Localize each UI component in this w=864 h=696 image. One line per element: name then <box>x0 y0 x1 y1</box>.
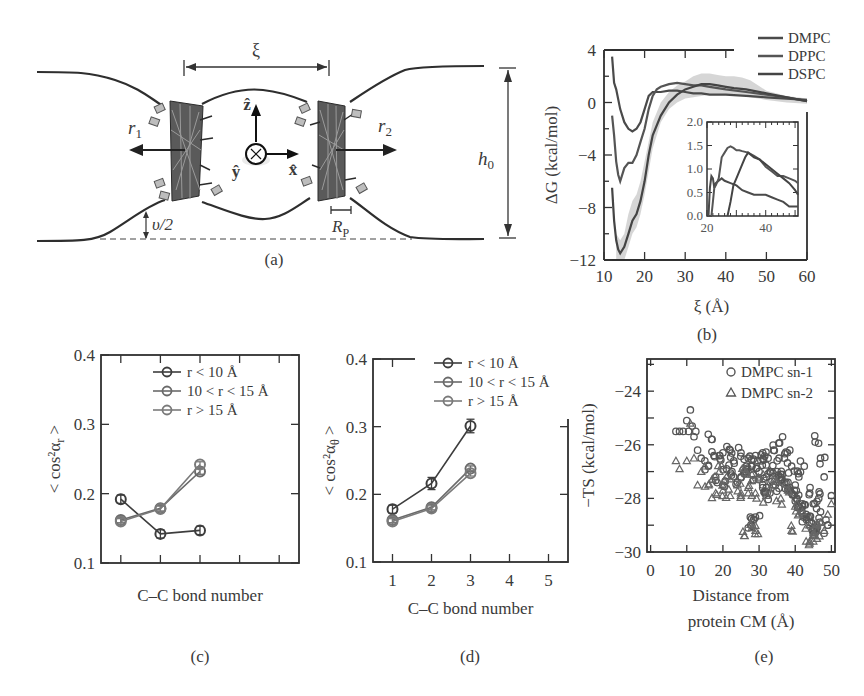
r2-label: r2 <box>378 115 392 139</box>
legend-dppc: DPPC <box>788 48 826 64</box>
x-axis-title: ξ (Å) <box>694 297 729 316</box>
x-tick-label: 4 <box>505 571 514 590</box>
x-tick-label: 20 <box>714 561 731 580</box>
x-tick-label: 30 <box>677 267 694 286</box>
panel-d-order-parameter-theta-chart: 123450.10.20.30.4r < 10 Å10 < r < 15 År … <box>320 350 570 618</box>
legend-dmpc: DMPC <box>788 30 831 46</box>
x-axis-label: x̂ <box>289 160 298 179</box>
panel-b-free-energy-chart: 10203040506040−4−8−12ξ (Å)ΔG (kcal/mol)D… <box>542 30 831 316</box>
h0-label: h0 <box>478 148 494 172</box>
membrane-lower-middle <box>202 198 310 219</box>
x-axis-title: C–C bond number <box>137 586 263 605</box>
y-tick-label: −28 <box>614 489 641 508</box>
membrane-lower-right <box>350 198 484 239</box>
scatter-point-sn1 <box>822 454 828 460</box>
xi-label: ξ <box>252 40 260 60</box>
panel-a-schematic: ξ r1 r2 ẑ x̂ ŷ <box>37 40 516 269</box>
y-tick-label: 0.4 <box>346 350 368 369</box>
x-tick-label: 30 <box>751 561 768 580</box>
scatter-point-sn1 <box>812 433 818 439</box>
v-half-label: υ/2 <box>152 215 174 234</box>
scatter-point-sn2 <box>676 465 683 471</box>
y-tick-label: 4 <box>588 41 597 60</box>
y-tick-label: 0 <box>588 94 597 113</box>
inset-y-tick-label: 1.5 <box>687 138 703 153</box>
panel-c-order-parameter-r-chart: 0.10.20.30.4r < 10 Å10 < r < 15 År > 15 … <box>45 346 299 605</box>
x-tick-label: 2 <box>427 571 436 590</box>
panel-d-label: (d) <box>460 647 480 666</box>
y-tick-label: 0.1 <box>346 553 367 572</box>
scatter-point-sn1 <box>821 474 827 480</box>
x-tick-label: 5 <box>544 571 553 590</box>
scatter-point-sn1 <box>797 458 803 464</box>
scatter-point-sn1 <box>785 470 791 476</box>
legend-entry: DMPC sn-1 <box>741 364 813 380</box>
legend-entry: r < 10 Å <box>187 364 238 380</box>
y-tick-label: −26 <box>614 436 641 455</box>
x-tick-label: 10 <box>678 561 695 580</box>
legend-entry: r > 15 Å <box>468 393 519 409</box>
inset-x-tick-label: 20 <box>701 220 714 235</box>
y-tick-label: −12 <box>569 251 596 270</box>
scatter-point-sn2 <box>828 500 835 506</box>
y-tick-label: −4 <box>578 146 597 165</box>
x-axis-title-line2: protein CM (Å) <box>688 612 795 631</box>
x-tick-label: 60 <box>799 267 816 286</box>
x-tick-label: 50 <box>823 561 840 580</box>
xi-dimension-arrow: ξ <box>184 40 329 76</box>
scatter-point-sn2 <box>824 511 831 517</box>
x-tick-label: 3 <box>466 571 475 590</box>
scatter-point-sn1 <box>694 447 700 453</box>
x-tick-label: 0 <box>646 561 655 580</box>
y-tick-label: 0.3 <box>74 415 95 434</box>
x-tick-label: 1 <box>388 571 397 590</box>
x-axis-title-line1: Distance from <box>693 586 790 605</box>
v-half-dimension: υ/2 <box>143 211 174 239</box>
inset-y-tick-label: 2.0 <box>687 114 703 129</box>
inset-y-tick-label: 1.0 <box>687 161 703 176</box>
coordinate-axes: ẑ x̂ ŷ <box>232 95 299 181</box>
x-axis-title: C–C bond number <box>408 599 534 618</box>
y-axis-label: ŷ <box>232 162 241 181</box>
scatter-point-sn1 <box>687 407 693 413</box>
inset-x-tick-label: 40 <box>759 220 772 235</box>
panel-b-label: (b) <box>697 325 717 344</box>
scatter-point-sn1 <box>705 431 711 437</box>
x-tick-label: 40 <box>787 561 804 580</box>
scatter-point-sn2 <box>690 455 697 461</box>
panel-a-label: (a) <box>265 250 284 269</box>
legend-dspc: DSPC <box>788 66 826 82</box>
x-tick-label: 40 <box>717 267 734 286</box>
legend-entry: 10 < r < 15 Å <box>187 383 269 399</box>
legend-entry: r > 15 Å <box>187 402 238 418</box>
legend-entry: DMPC sn-2 <box>741 385 813 401</box>
x-tick-label: 10 <box>596 267 613 286</box>
y-axis-title: < cos²αr > <box>45 425 67 493</box>
y-axis-title: −TS (kcal/mol) <box>579 403 598 507</box>
y-tick-label: 0.2 <box>74 485 95 504</box>
x-tick-label: 20 <box>636 267 653 286</box>
y-tick-label: 0.3 <box>346 418 367 437</box>
scatter-point-sn2 <box>694 481 701 487</box>
membrane-upper-middle <box>202 90 307 104</box>
y-tick-label: 0.2 <box>346 485 367 504</box>
y-tick-label: −24 <box>614 382 641 401</box>
scatter-point-sn2 <box>683 457 690 463</box>
figure: ξ r1 r2 ẑ x̂ ŷ <box>0 0 864 696</box>
y-tick-label: −30 <box>614 543 641 562</box>
rp-dimension: RP <box>331 206 351 240</box>
scatter-point-sn2 <box>672 457 679 463</box>
z-axis-label: ẑ <box>243 95 251 114</box>
r1-label: r1 <box>128 117 142 141</box>
panel-e-label: (e) <box>755 647 774 666</box>
y-axis-title: < cos²αθ > <box>320 425 342 495</box>
legend-entry: r < 10 Å <box>468 355 519 371</box>
membrane-upper-left <box>37 72 163 106</box>
y-axis-title: ΔG (kcal/mol) <box>542 106 561 204</box>
legend-entry: 10 < r < 15 Å <box>468 374 550 390</box>
y-tick-label: −8 <box>578 199 596 218</box>
scatter-point-sn1 <box>770 462 776 468</box>
y-tick-label: 0.1 <box>74 554 95 573</box>
rp-label: RP <box>331 217 349 240</box>
scatter-point-sn1 <box>779 434 785 440</box>
